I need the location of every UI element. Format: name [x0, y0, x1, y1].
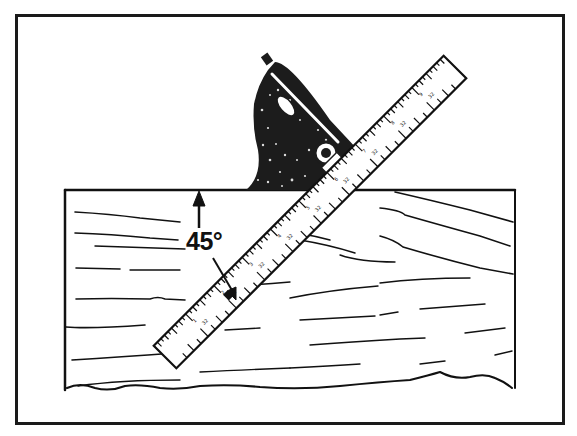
angle-label: 45° — [186, 227, 222, 256]
combination-square-illustration: 132 232 332 432 532 632 732 832 932 — [0, 0, 577, 436]
